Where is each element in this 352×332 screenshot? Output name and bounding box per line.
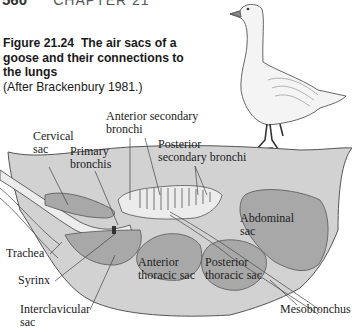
label-posterior-secondary-bronchi: Posterior secondary bronchi [158, 138, 246, 164]
label-syrinx: Syrinx [18, 274, 50, 287]
label-anterior-secondary-bronchi: Anterior secondary bronchi [106, 110, 198, 136]
label-trachea: Trachea [6, 247, 44, 260]
label-line: bronchis [70, 158, 111, 171]
label-line: secondary bronchi [158, 151, 246, 164]
label-line: thoracic sac [205, 269, 262, 282]
syrinx-shape [112, 226, 116, 234]
label-abdominal-sac: Abdominal sac [240, 212, 294, 238]
label-primary-bronchis: Primary bronchis [70, 145, 111, 171]
air-sac-diagram [0, 0, 352, 332]
label-line: bronchi [106, 123, 198, 136]
label-line: sac [240, 225, 294, 238]
label-line: sac [20, 316, 90, 329]
label-line: thoracic sac [138, 269, 195, 282]
label-mesobronchus: Mesobronchus [280, 303, 351, 316]
goose-illustration [230, 4, 346, 152]
label-cervical-sac: Cervical sac [33, 130, 74, 156]
label-anterior-thoracic-sac: Anterior thoracic sac [138, 256, 195, 282]
label-posterior-thoracic-sac: Posterior thoracic sac [205, 256, 262, 282]
label-interclavicular-sac: Interclavicular sac [20, 303, 90, 329]
label-line: sac [33, 143, 74, 156]
